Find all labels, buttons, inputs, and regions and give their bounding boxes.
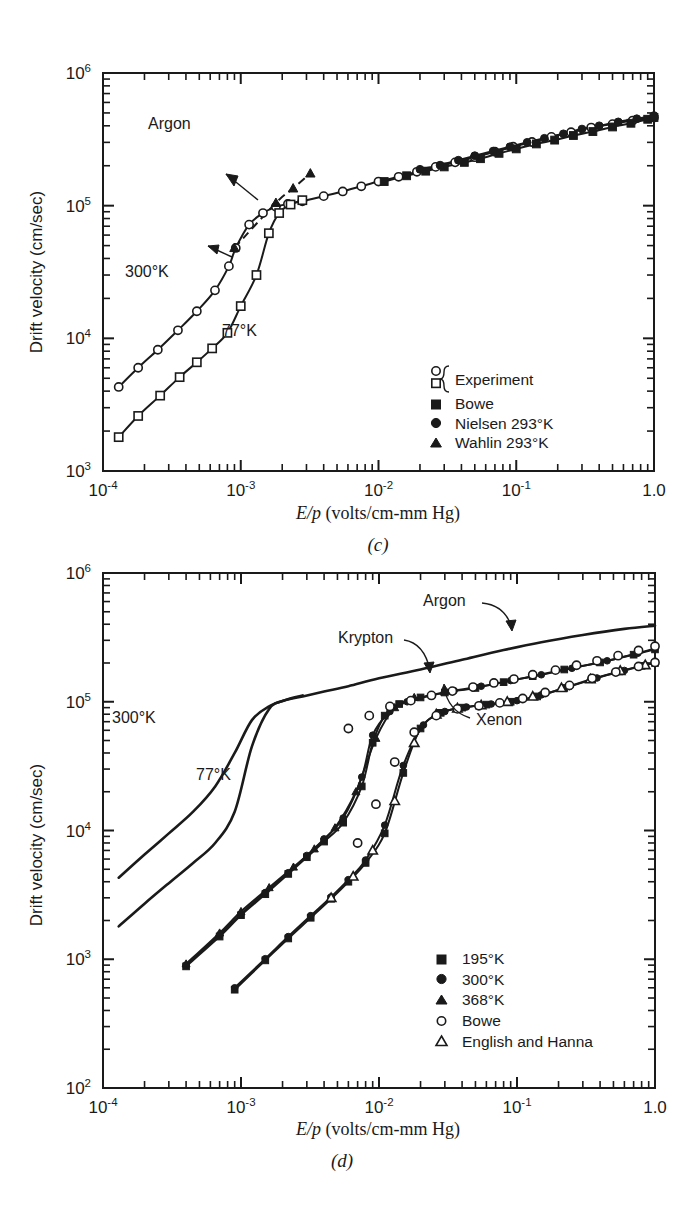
chart-c-gas-label: Argon xyxy=(148,115,191,132)
open-square-icon xyxy=(432,379,440,387)
filled-circle-icon xyxy=(437,974,446,983)
legend-label-nielsen: Nielsen 293°K xyxy=(455,415,554,432)
legend-label-wahlin: Wahlin 293°K xyxy=(455,434,549,451)
chart-d-label-krypton: Krypton xyxy=(338,629,393,646)
svg-text:103: 103 xyxy=(66,948,91,969)
chart-d-label-300k: 300°K xyxy=(112,709,156,726)
brace-icon xyxy=(441,366,449,392)
chart-d-annot-argon: Argon xyxy=(423,592,516,631)
svg-text:106: 106 xyxy=(66,62,91,83)
chart-c-label-300k: 300°K xyxy=(125,263,169,280)
svg-text:1.0: 1.0 xyxy=(643,1098,667,1117)
filled-square-icon xyxy=(437,955,446,964)
chart-d-label-xenon: Xenon xyxy=(476,711,522,728)
svg-text:102: 102 xyxy=(66,1077,91,1098)
legend-label-300k: 300°K xyxy=(462,971,505,988)
wahlin-arrow-lower xyxy=(208,245,232,257)
chart-c-legend: Experiment Bowe Nielsen 293°K Wahlin 293… xyxy=(431,366,554,451)
legend-label-bowe: Bowe xyxy=(462,1012,501,1029)
open-triangle-icon xyxy=(436,1036,447,1046)
filled-triangle-icon xyxy=(431,438,442,447)
chart-d-legend: 195°K 300°K 368°K Bowe English and Hanna xyxy=(436,950,593,1050)
legend-item-english-hanna: English and Hanna xyxy=(436,1033,593,1050)
open-circle-icon xyxy=(432,367,440,375)
legend-item-wahlin: Wahlin 293°K xyxy=(431,434,550,451)
chart-d-xaxis-title: E/p (volts/cm-mm Hg) xyxy=(295,1119,460,1140)
chart-c-label-77k: 77°K xyxy=(222,322,257,339)
svg-text:10-2: 10-2 xyxy=(364,1096,393,1117)
chart-d-yaxis-title: Drift velocity (cm/sec) xyxy=(27,764,46,926)
svg-text:103: 103 xyxy=(66,460,91,481)
filled-square-icon xyxy=(432,400,441,409)
svg-text:10-2: 10-2 xyxy=(364,479,393,500)
legend-item-195k: 195°K xyxy=(437,950,505,967)
filled-triangle-icon xyxy=(436,995,447,1004)
legend-item-experiment: Experiment xyxy=(432,366,534,392)
legend-item-368k: 368°K xyxy=(436,991,505,1008)
chart-c-markers xyxy=(115,112,659,442)
chart-panel-c: 10-410-310-210-11.0103104105106 Argon 30… xyxy=(0,0,688,560)
chart-c-yaxis-title: Drift velocity (cm/sec) xyxy=(27,191,46,353)
legend-item-300k: 300°K xyxy=(437,971,505,988)
chart-c-curves xyxy=(119,116,654,438)
chart-d-markers xyxy=(182,642,659,993)
legend-label-english-hanna: English and Hanna xyxy=(462,1033,593,1050)
legend-item-bowe: Bowe xyxy=(432,395,494,412)
svg-text:106: 106 xyxy=(66,562,91,583)
svg-text:105: 105 xyxy=(66,195,91,216)
figure-page: 10-410-310-210-11.0103104105106 Argon 30… xyxy=(0,0,688,1225)
chart-d-annot-krypton: Krypton xyxy=(338,629,434,673)
legend-label-bowe: Bowe xyxy=(455,395,494,412)
svg-text:10-4: 10-4 xyxy=(88,479,118,500)
chart-d-label-argon: Argon xyxy=(423,592,466,609)
legend-item-bowe: Bowe xyxy=(437,1012,500,1029)
svg-text:104: 104 xyxy=(66,327,92,348)
legend-item-nielsen: Nielsen 293°K xyxy=(431,415,554,432)
svg-text:10-1: 10-1 xyxy=(502,1096,531,1117)
legend-label-368k: 368°K xyxy=(462,991,505,1008)
chart-c-svg: 10-410-310-210-11.0103104105106 Argon 30… xyxy=(0,0,688,560)
chart-d-label-77k: 77°K xyxy=(196,766,231,783)
svg-text:105: 105 xyxy=(66,691,91,712)
legend-label-195k: 195°K xyxy=(462,950,505,967)
open-circle-icon xyxy=(437,1017,445,1025)
wahlin-arrow-upper xyxy=(226,174,258,200)
filled-circle-icon xyxy=(431,418,440,427)
svg-text:10-3: 10-3 xyxy=(226,1096,255,1117)
svg-text:10-1: 10-1 xyxy=(502,479,531,500)
chart-panel-d: 10-410-310-210-11.0102103104105106 Argon… xyxy=(0,515,688,1225)
svg-text:1.0: 1.0 xyxy=(642,481,666,500)
chart-d-subfigure-label: (d) xyxy=(331,1150,353,1172)
svg-text:104: 104 xyxy=(66,820,92,841)
legend-label-experiment: Experiment xyxy=(455,371,534,388)
svg-text:10-3: 10-3 xyxy=(226,479,255,500)
chart-d-svg: 10-410-310-210-11.0102103104105106 Argon… xyxy=(0,515,688,1225)
svg-text:10-4: 10-4 xyxy=(88,1096,118,1117)
chart-d-curves xyxy=(119,626,655,990)
